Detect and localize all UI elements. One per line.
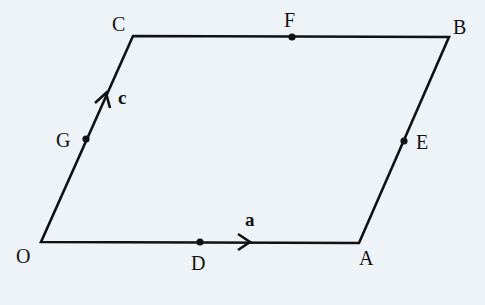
label-C: C <box>112 14 125 34</box>
label-O: O <box>16 246 30 266</box>
vector-c-label: c <box>118 88 126 107</box>
label-B: B <box>453 17 466 37</box>
vector-a-label: a <box>245 210 255 229</box>
label-D: D <box>191 253 205 273</box>
label-F: F <box>284 10 295 30</box>
parallelogram-figure <box>0 0 485 305</box>
label-E: E <box>416 132 428 152</box>
point-G <box>82 135 89 142</box>
label-A: A <box>359 248 373 268</box>
point-F <box>288 33 295 40</box>
diagram-canvas: O A B C D E F G a c <box>0 0 485 305</box>
label-G: G <box>56 130 70 150</box>
point-E <box>400 137 407 144</box>
point-D <box>196 238 203 245</box>
